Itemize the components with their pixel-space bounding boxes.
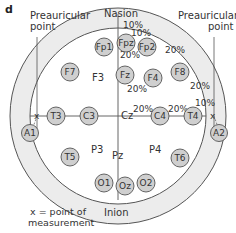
electrode-c3: C3	[80, 107, 98, 125]
pct-f8-t4: 20%	[190, 81, 210, 91]
legend-line1: x = point of	[30, 206, 87, 217]
inion-label: Inion	[104, 207, 129, 218]
electrode-o2: O2	[137, 174, 155, 192]
preauricular-right-l1: Preauricular	[178, 10, 236, 21]
measure-point-left: x	[34, 111, 40, 121]
region-p4: P4	[149, 144, 161, 155]
svg-text:T5: T5	[63, 152, 75, 162]
svg-text:T6: T6	[173, 153, 185, 163]
svg-text:T3: T3	[49, 111, 61, 121]
electrode-f8: F8	[171, 63, 189, 81]
svg-text:Fp1: Fp1	[96, 42, 113, 52]
electrode-fpz: Fpz	[117, 34, 135, 52]
region-f3: F3	[92, 72, 104, 83]
electrode-a1: A1	[22, 125, 39, 142]
pct-t4: 10%	[195, 98, 215, 108]
electrode-oz: Oz	[116, 177, 134, 195]
measure-point-right: x	[210, 111, 216, 121]
preauricular-left-l1: Preauricular	[30, 10, 91, 21]
pct-cz-c4: 20%	[133, 104, 153, 114]
svg-text:Fpz: Fpz	[118, 38, 134, 48]
svg-text:T4: T4	[186, 111, 198, 121]
svg-text:O1: O1	[98, 178, 111, 188]
electrode-t3: T3	[47, 107, 65, 125]
pct-fz-cz: 20%	[127, 84, 147, 94]
electrode-fp1: Fp1	[95, 38, 113, 56]
svg-text:A2: A2	[213, 128, 225, 138]
svg-text:C4: C4	[154, 111, 166, 121]
region-p3: P3	[91, 144, 103, 155]
electrode-t4: T4	[184, 107, 202, 125]
eeg-10-20-diagram: x x d Nasion Preauricular point Preauric…	[0, 0, 236, 233]
electrode-f4: F4	[144, 69, 162, 87]
electrode-t5: T5	[61, 148, 79, 166]
svg-text:Fp2: Fp2	[139, 42, 156, 52]
svg-text:Oz: Oz	[119, 181, 131, 191]
preauricular-right-l2: point	[208, 21, 234, 32]
electrode-fz: Fz	[116, 66, 134, 84]
electrode-o1: O1	[95, 174, 113, 192]
pct-fpz: 10%	[131, 28, 151, 38]
svg-text:O2: O2	[140, 178, 153, 188]
svg-text:A1: A1	[24, 128, 36, 138]
region-pz: Pz	[112, 150, 123, 161]
region-cz: Cz	[121, 110, 133, 121]
legend-line2: measurement	[28, 217, 95, 228]
svg-text:C3: C3	[83, 111, 95, 121]
electrode-f7: F7	[61, 63, 79, 81]
svg-text:F7: F7	[65, 67, 76, 77]
nasion-label: Nasion	[104, 8, 138, 19]
electrode-c4: C4	[151, 107, 169, 125]
preauricular-left-l2: point	[30, 21, 56, 32]
svg-text:Fz: Fz	[120, 70, 130, 80]
svg-text:F4: F4	[148, 73, 159, 83]
svg-text:F8: F8	[175, 67, 186, 77]
panel-label: d	[5, 3, 13, 16]
pct-fp2-f8: 20%	[165, 45, 185, 55]
electrode-fp2: Fp2	[138, 38, 156, 56]
electrode-t6: T6	[171, 149, 189, 167]
electrode-a2: A2	[211, 125, 228, 142]
